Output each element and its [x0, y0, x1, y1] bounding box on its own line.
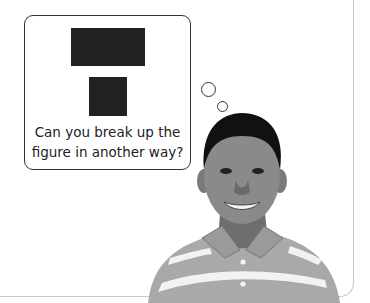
figure-bottom-square	[89, 77, 127, 116]
figure-top-rectangle	[71, 28, 145, 66]
boy-photo-icon	[140, 108, 345, 303]
thought-circle-large	[201, 82, 216, 97]
